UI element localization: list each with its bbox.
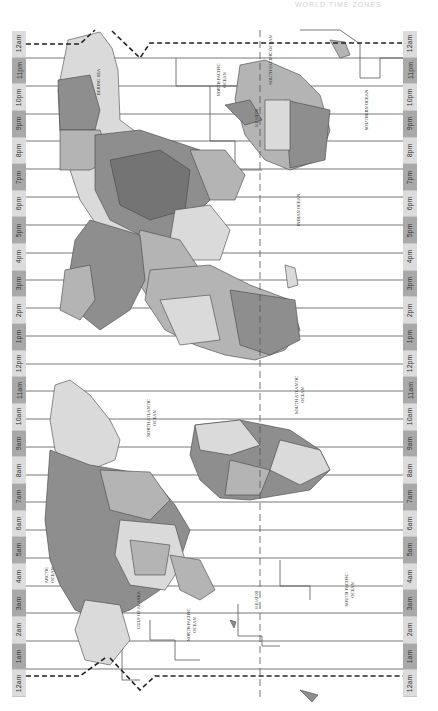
hour-label-cell: 10am (12, 404, 26, 431)
hour-label: 12am (16, 674, 23, 692)
world-time-zone-map: NORTH PACIFIC OCEAN SOUTH PACIFIC OCEAN … (0, 0, 438, 711)
hour-label: 7pm (407, 170, 414, 184)
hour-label-cell: 12am (12, 31, 26, 58)
ocean-label: OCEAN (50, 567, 55, 583)
hour-label-cell: 2am (403, 617, 417, 644)
hour-label-cell: 10pm (12, 84, 26, 111)
hour-label: 4am (16, 570, 23, 584)
hour-label: 4pm (407, 250, 414, 264)
ocean-label: SOUTH ATLANTIC (294, 376, 299, 414)
region-africa-east (230, 290, 300, 355)
hour-label: 7pm (16, 170, 23, 184)
hour-label: 9am (16, 437, 23, 451)
hour-label: 12am (407, 674, 414, 692)
hour-label-cell: 9pm (403, 111, 417, 138)
hour-label-cell: 2pm (403, 297, 417, 324)
hour-label-cell: 12am (12, 670, 26, 697)
ocean-label: SOUTHERN OCEAN (364, 89, 369, 130)
hour-label-cell: 1pm (403, 324, 417, 351)
hour-label: 2pm (407, 303, 414, 317)
ocean-label: NORTH PACIFIC (216, 63, 221, 96)
hour-label-cell: 10am (403, 404, 417, 431)
hour-label: 8am (407, 463, 414, 477)
hour-label-cell: 11am (403, 377, 417, 404)
hour-label-cell: 7am (403, 484, 417, 511)
hour-label: 3pm (407, 277, 414, 291)
hour-label-cell: 6pm (12, 191, 26, 218)
equator-label: EQUATOR (254, 108, 259, 127)
ocean-label: OCEAN (222, 72, 227, 88)
hour-label: 10am (16, 408, 23, 426)
hour-label: 4pm (16, 250, 23, 264)
hour-label: 7am (16, 490, 23, 504)
hour-label: 6am (407, 517, 414, 531)
hour-label: 12pm (407, 355, 414, 373)
hour-label-cell: 4pm (12, 244, 26, 271)
hour-label-cell: 4am (403, 564, 417, 591)
hour-label-cell: 5am (12, 537, 26, 564)
hour-label: 3am (407, 596, 414, 610)
region-hawaii (230, 620, 236, 628)
hour-label: 6pm (16, 197, 23, 211)
hour-label: 5am (16, 543, 23, 557)
hour-label: 10pm (16, 88, 23, 106)
hour-label: 10pm (407, 88, 414, 106)
hour-label-cell: 12pm (403, 351, 417, 378)
hour-label-cell: 9pm (12, 111, 26, 138)
hour-label-cell: 1am (403, 644, 417, 671)
hour-label-cell: 8am (12, 457, 26, 484)
hour-label-cell: 4am (12, 564, 26, 591)
ocean-label: BERING SEA (96, 68, 101, 95)
region-usa-central (130, 540, 170, 575)
hour-label-cell: 1pm (12, 324, 26, 351)
hour-label-cell: 7pm (403, 164, 417, 191)
hour-label-cell: 10pm (403, 84, 417, 111)
hour-label: 12am (16, 35, 23, 53)
hour-label-cell: 3am (12, 590, 26, 617)
hour-label: 11pm (407, 62, 414, 79)
hour-label: 12am (407, 35, 414, 53)
hour-label-cell: 8pm (12, 138, 26, 165)
international-date-line-bottom (26, 658, 403, 690)
hour-label: 4am (407, 570, 414, 584)
ocean-label: INDIAN OCEAN (296, 193, 301, 226)
hour-label: 1am (16, 650, 23, 664)
region-mexico (170, 555, 215, 600)
ocean-label: SOUTH PACIFIC OCEAN (268, 34, 273, 84)
hour-label: 9am (407, 437, 414, 451)
region-pacific-islands (300, 690, 318, 702)
hour-label-cell: 3pm (403, 271, 417, 298)
hour-label-cell: 3pm (12, 271, 26, 298)
hour-label: 12pm (16, 355, 23, 373)
hour-label: 8pm (16, 144, 23, 158)
hour-label: 10am (407, 408, 414, 426)
region-australia-west (285, 100, 330, 168)
ocean-label: OCEAN (192, 617, 197, 633)
hour-strip-right: 12am11pm10pm9pm8pm7pm6pm5pm4pm3pm2pm1pm1… (403, 31, 417, 697)
hour-label-cell: 6am (403, 511, 417, 538)
ocean-label: OCEAN (350, 582, 355, 598)
region-madagascar (285, 265, 298, 288)
hour-label: 9pm (16, 117, 23, 131)
ocean-label: OCEAN (152, 410, 157, 426)
hour-label: 9pm (407, 117, 414, 131)
hour-label: 11am (16, 382, 23, 399)
hour-label-cell: 2am (12, 617, 26, 644)
hour-label-cell: 4pm (403, 244, 417, 271)
hour-label-cell: 6pm (403, 191, 417, 218)
hour-label: 7am (407, 490, 414, 504)
hour-label-cell: 11am (12, 377, 26, 404)
hour-label: 3am (16, 596, 23, 610)
hour-label-cell: 2pm (12, 297, 26, 324)
hour-label-cell: 11pm (403, 58, 417, 85)
hour-label-cell: 11pm (12, 58, 26, 85)
hour-label: 2am (407, 623, 414, 637)
region-africa-west (160, 295, 220, 345)
hour-label-cell: 8pm (403, 138, 417, 165)
hour-label: 8pm (407, 144, 414, 158)
hour-label: 5am (407, 543, 414, 557)
hour-label: 2pm (16, 303, 23, 317)
hour-label: 1pm (407, 330, 414, 344)
hour-label: 11pm (16, 62, 23, 79)
hour-label-cell: 12am (403, 31, 417, 58)
